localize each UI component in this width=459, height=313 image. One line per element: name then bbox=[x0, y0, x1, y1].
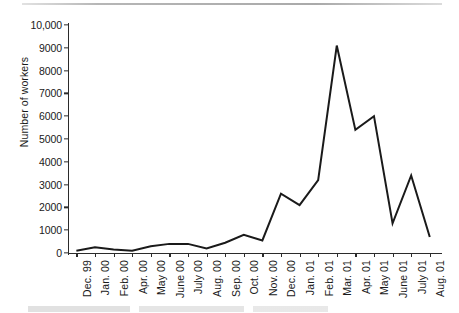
x-tick-mark bbox=[76, 253, 77, 257]
x-tick-mark bbox=[300, 253, 301, 257]
y-tick-label: 4000 bbox=[39, 156, 68, 168]
x-tick-label: Dec. 99 bbox=[81, 260, 93, 297]
y-tick-label: 0 bbox=[56, 247, 68, 259]
x-tick-mark bbox=[411, 253, 412, 257]
x-tick-label: June 01 bbox=[397, 260, 409, 298]
page-top-rule bbox=[22, 3, 442, 5]
figure-container: Number of workers 0100020003000400050006… bbox=[0, 0, 459, 313]
x-tick-label: Oct. 00 bbox=[248, 260, 260, 295]
x-tick-mark bbox=[207, 253, 208, 257]
y-tick-label: 9000 bbox=[39, 42, 68, 54]
plot-area: 010002000300040005000600070008000900010,… bbox=[68, 25, 440, 253]
x-tick-mark bbox=[114, 253, 115, 257]
x-tick-label: Nov. 00 bbox=[267, 260, 279, 296]
x-tick-label: Aug. 01 bbox=[434, 260, 446, 297]
y-tick-label: 8000 bbox=[39, 65, 68, 77]
x-tick-mark bbox=[318, 253, 319, 257]
y-axis-title: Number of workers bbox=[18, 17, 30, 187]
x-tick-label: Jan. 00 bbox=[99, 260, 111, 295]
x-tick-label: July 00 bbox=[192, 260, 204, 294]
x-tick-label: Feb. 01 bbox=[323, 260, 335, 296]
x-tick-mark bbox=[151, 253, 152, 257]
caption-remnant bbox=[28, 306, 328, 312]
x-tick-mark bbox=[281, 253, 282, 257]
y-tick-label: 1000 bbox=[39, 224, 68, 236]
x-tick-label: May 00 bbox=[155, 260, 167, 295]
y-tick-label: 10,000 bbox=[30, 19, 68, 31]
x-tick-mark bbox=[225, 253, 226, 257]
x-tick-mark bbox=[188, 253, 189, 257]
x-tick-label: Jan. 01 bbox=[304, 260, 316, 295]
series-line bbox=[76, 46, 429, 251]
x-tick-label: Sep. 00 bbox=[230, 260, 242, 297]
x-tick-label: May 01 bbox=[378, 260, 390, 295]
y-tick-label: 3000 bbox=[39, 179, 68, 191]
x-tick-label: Mar. 01 bbox=[341, 260, 353, 296]
x-tick-mark bbox=[169, 253, 170, 257]
x-tick-label: June 00 bbox=[174, 260, 186, 298]
x-tick-label: Apr. 00 bbox=[137, 260, 149, 294]
x-tick-label: Aug. 00 bbox=[211, 260, 223, 297]
x-tick-mark bbox=[244, 253, 245, 257]
y-tick-label: 2000 bbox=[39, 201, 68, 213]
y-tick-label: 5000 bbox=[39, 133, 68, 145]
y-tick-label: 7000 bbox=[39, 87, 68, 99]
x-tick-mark bbox=[393, 253, 394, 257]
y-tick-label: 6000 bbox=[39, 110, 68, 122]
x-tick-mark bbox=[132, 253, 133, 257]
x-tick-mark bbox=[95, 253, 96, 257]
x-tick-label: Apr. 01 bbox=[360, 260, 372, 294]
x-tick-mark bbox=[355, 253, 356, 257]
x-tick-mark bbox=[430, 253, 431, 257]
x-tick-mark bbox=[374, 253, 375, 257]
x-tick-label: Feb. 00 bbox=[118, 260, 130, 296]
x-tick-mark bbox=[262, 253, 263, 257]
line-series bbox=[68, 25, 440, 253]
x-tick-mark bbox=[337, 253, 338, 257]
x-tick-label: Dec. 00 bbox=[285, 260, 297, 297]
x-axis-line bbox=[68, 253, 442, 254]
x-tick-label: July 01 bbox=[416, 260, 428, 294]
